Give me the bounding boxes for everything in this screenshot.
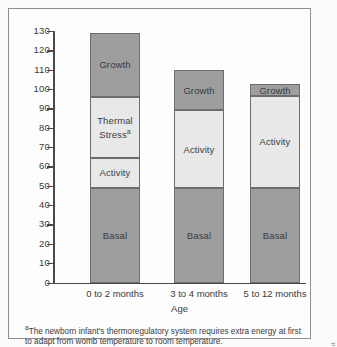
bar-segment-label: Growth <box>99 59 130 70</box>
y-tick-label: 120 <box>34 46 50 56</box>
bar-segment-label: Growth <box>183 85 214 96</box>
plot-area: 0102030405060708090100110120130 BasalAct… <box>53 31 306 284</box>
bar-segment-label: Basal <box>187 230 211 241</box>
bar-segment-basal[interactable]: Basal <box>250 188 300 283</box>
x-axis-line <box>53 283 306 285</box>
bar-segment-activity[interactable]: Activity <box>90 158 140 188</box>
category-label-3: 5 to 12 months <box>244 288 307 299</box>
category-label-1: 0 to 2 months <box>86 288 144 299</box>
y-tick-label: 50 <box>39 181 50 191</box>
bar-segment-growth[interactable]: Growth <box>250 84 300 96</box>
bar-segment-basal[interactable]: Basal <box>90 188 140 283</box>
source-credit: Source: Adapted from data in E. M. Widdo… <box>329 341 336 347</box>
bar-segment-basal[interactable]: Basal <box>174 188 224 283</box>
bar-segment-label: Growth <box>259 85 290 96</box>
y-tick-label: 0 <box>45 278 50 288</box>
category-label-2: 3 to 4 months <box>170 288 228 299</box>
y-tick-label: 20 <box>39 239 50 249</box>
y-tick-label: 80 <box>39 123 50 133</box>
bar-2[interactable]: BasalActivityGrowth <box>174 70 224 283</box>
bar-segment-growth[interactable]: Growth <box>174 70 224 111</box>
bar-1[interactable]: BasalActivityThermal StressaGrowth <box>90 33 140 283</box>
y-tick-label: 90 <box>39 104 50 114</box>
bar-segment-label: Basal <box>263 230 287 241</box>
segment-footnote-marker: a <box>127 128 131 135</box>
bar-segment-activity[interactable]: Activity <box>250 96 300 188</box>
y-tick-label: 100 <box>34 84 50 94</box>
y-tick-label: 70 <box>39 142 50 152</box>
figure-container: 0102030405060708090100110120130 BasalAct… <box>0 0 337 347</box>
y-tick-label: 40 <box>39 200 50 210</box>
bar-segment-label: Activity <box>260 136 291 147</box>
figure-frame: 0102030405060708090100110120130 BasalAct… <box>8 8 311 339</box>
bar-segment-label: Activity <box>184 144 215 155</box>
bar-3[interactable]: BasalActivityGrowth <box>250 84 300 282</box>
bar-segment-thermal-stress[interactable]: Thermal Stressa <box>90 97 140 158</box>
y-tick-label: 130 <box>34 26 50 36</box>
y-axis-line <box>53 31 55 284</box>
bar-segment-growth[interactable]: Growth <box>90 33 140 97</box>
y-tick-label: 60 <box>39 162 50 172</box>
footnote-text: The newborn infant's thermoregulatory sy… <box>25 327 301 347</box>
y-tick-label: 110 <box>34 65 50 75</box>
footnote: aThe newborn infant's thermoregulatory s… <box>25 323 310 347</box>
x-axis-title: Age <box>171 303 188 314</box>
bar-segment-label: Basal <box>103 230 127 241</box>
y-tick-label: 10 <box>39 258 50 268</box>
bar-segment-label: Thermal Stressa <box>97 115 133 140</box>
y-tick-label: 30 <box>39 220 50 230</box>
bar-segment-label: Activity <box>100 167 131 178</box>
bar-segment-activity[interactable]: Activity <box>174 110 224 187</box>
